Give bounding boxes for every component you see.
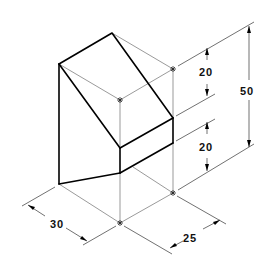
dimension-label-lower-20: 20 bbox=[199, 141, 213, 153]
dimension-label-upper-20: 20 bbox=[199, 66, 213, 78]
dimension-lower-height: 20 bbox=[199, 122, 213, 171]
isometric-drawing: 20 20 50 30 25 bbox=[0, 0, 271, 278]
object-outline bbox=[59, 33, 173, 184]
star-marker-center bbox=[117, 97, 123, 103]
dimension-total-height: 50 bbox=[240, 26, 254, 147]
dimension-label-25: 25 bbox=[183, 232, 197, 244]
extension-lines-right bbox=[176, 22, 254, 190]
star-marker-top-right bbox=[170, 66, 176, 72]
dimension-label-50: 50 bbox=[240, 85, 254, 97]
dimension-upper-height: 20 bbox=[199, 48, 213, 96]
star-marker-bottom-center bbox=[117, 220, 123, 226]
dimension-label-30: 30 bbox=[50, 218, 64, 230]
dimension-width-left: 30 bbox=[22, 187, 116, 245]
star-marker-bottom-right bbox=[170, 190, 176, 196]
dimension-depth-right: 25 bbox=[124, 196, 226, 254]
